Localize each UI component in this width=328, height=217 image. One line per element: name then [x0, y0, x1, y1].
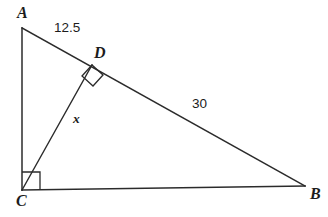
- segment-ab: [22, 28, 305, 186]
- geometry-figure: A B C D 12.5 30 x: [0, 0, 328, 217]
- measure-label-altitude-x: x: [73, 112, 80, 126]
- measure-label-ad: 12.5: [54, 21, 80, 35]
- vertex-label-d: D: [94, 45, 106, 61]
- measure-label-db: 30: [192, 97, 207, 111]
- vertex-label-a: A: [17, 5, 28, 21]
- segment-cb: [22, 186, 305, 190]
- vertex-label-c: C: [16, 193, 27, 209]
- vertex-label-b: B: [310, 186, 321, 202]
- triangle-drawing: [0, 0, 328, 217]
- segment-cd-altitude: [22, 65, 92, 190]
